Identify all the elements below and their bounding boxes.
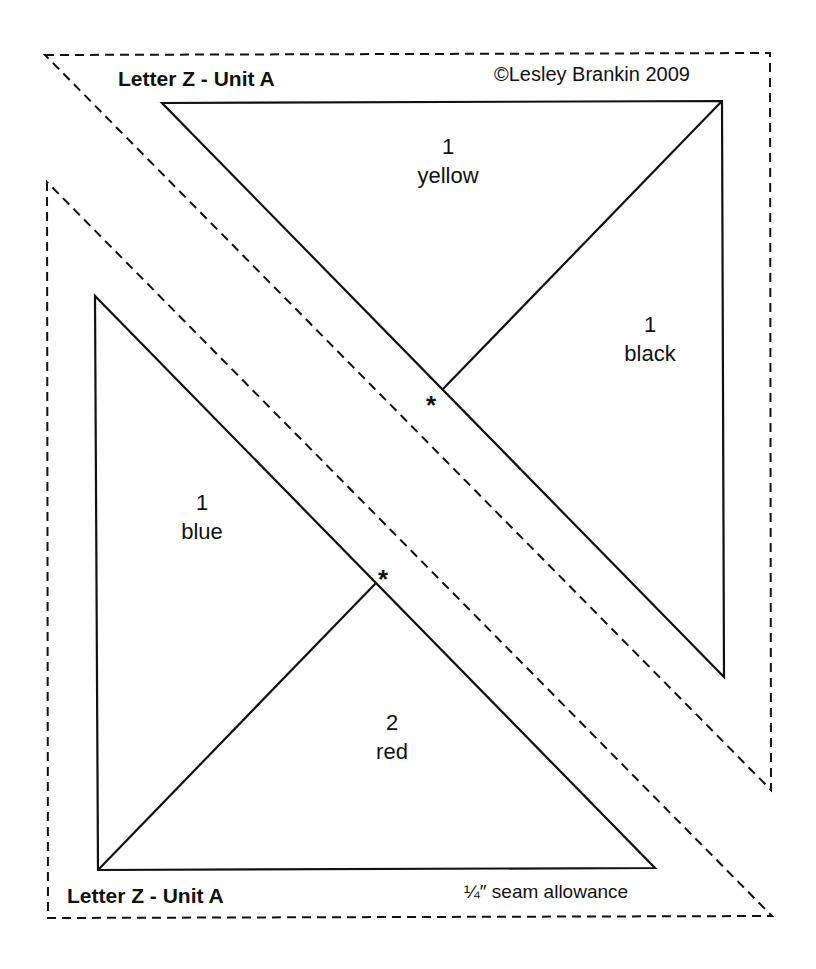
piece-black: 1 black: [590, 310, 710, 368]
piece-red-color: red: [332, 737, 452, 766]
piece-black-color: black: [590, 339, 710, 368]
lower-start-marker: *: [378, 566, 388, 592]
seam-allowance-note: ¼″ seam allowance: [464, 882, 628, 901]
lower-unit-title: Letter Z - Unit A: [67, 885, 224, 906]
piece-yellow: 1 yellow: [388, 132, 508, 190]
copyright-text: ©Lesley Brankin 2009: [494, 64, 690, 84]
piece-blue-color: blue: [142, 517, 262, 546]
piece-blue: 1 blue: [142, 488, 262, 546]
piece-red: 2 red: [332, 708, 452, 766]
piece-red-number: 2: [332, 708, 452, 737]
piece-yellow-color: yellow: [388, 161, 508, 190]
piece-black-number: 1: [590, 310, 710, 339]
piece-blue-number: 1: [142, 488, 262, 517]
lower-seam-allowance-outline: [47, 182, 772, 918]
upper-start-marker: *: [426, 392, 436, 418]
piece-yellow-number: 1: [388, 132, 508, 161]
upper-unit-title: Letter Z - Unit A: [118, 68, 275, 89]
